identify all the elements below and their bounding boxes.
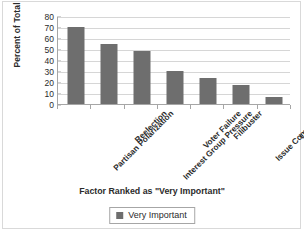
y-axis-tick-label: 70 [45, 23, 54, 33]
bar-slot [125, 17, 158, 104]
bar-series-very-important [59, 17, 290, 104]
y-axis-tick-label: 10 [45, 89, 54, 99]
y-axis-tick-label: 50 [45, 45, 54, 55]
bar[interactable] [199, 78, 216, 104]
bar[interactable] [133, 51, 150, 104]
bar[interactable] [232, 85, 249, 104]
bar-slot [224, 17, 257, 104]
y-axis-tick-label: 40 [45, 56, 54, 66]
bar-slot [191, 17, 224, 104]
x-axis-title: Factor Ranked as "Very Important" [0, 186, 304, 196]
y-axis-tick-labels: 80706050403020100 [37, 17, 57, 105]
bar[interactable] [265, 97, 282, 104]
legend-label: Very Important [128, 210, 187, 220]
bar-slot [59, 17, 92, 104]
chart-legend: Very Important [109, 207, 195, 224]
x-axis-category-labels: Partisan PolarizationReelectionInterest … [57, 109, 290, 179]
y-axis-tick-label: 60 [45, 34, 54, 44]
legend-swatch-icon [116, 212, 123, 219]
y-axis-tick-label: 0 [49, 100, 54, 110]
bar-slot [92, 17, 125, 104]
bar-chart: Percent of Total 80706050403020100 Parti… [0, 0, 304, 231]
y-axis-tick-label: 20 [45, 78, 54, 88]
bar-slot [257, 17, 290, 104]
y-axis-title: Percent of Total [12, 0, 22, 80]
y-axis-tick-label: 80 [45, 12, 54, 22]
bar[interactable] [67, 27, 84, 104]
x-axis-category-label: Interest Group Pressure [182, 109, 255, 182]
bar[interactable] [100, 44, 117, 105]
plot-area [57, 17, 290, 105]
bar[interactable] [166, 71, 183, 104]
y-axis-tick-label: 30 [45, 67, 54, 77]
x-axis-tick-mark [290, 105, 291, 109]
bar-slot [158, 17, 191, 104]
